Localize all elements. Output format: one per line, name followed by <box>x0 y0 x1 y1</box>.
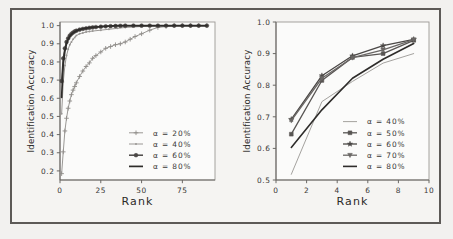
chart-svg-left: 0.20.30.40.50.60.70.80.91.00255075RankId… <box>10 8 225 224</box>
x-tick-label: 6 <box>365 186 370 195</box>
y-tick-label: 0.5 <box>41 112 55 121</box>
y-axis-title: Identification Accuracy <box>242 50 252 153</box>
figure-root: 0.20.30.40.50.60.70.80.91.00255075RankId… <box>0 0 453 239</box>
data-point <box>289 132 293 136</box>
chart-svg-right: 0.50.60.70.80.91.00246810RankIdentificat… <box>226 8 441 224</box>
y-tick-label: 0.3 <box>41 148 55 157</box>
x-tick-label: 50 <box>136 186 147 195</box>
y-tick-label: 0.5 <box>257 176 271 185</box>
data-point <box>135 143 137 145</box>
x-tick-label: 4 <box>335 186 340 195</box>
data-point <box>108 28 110 30</box>
y-tick-label: 0.6 <box>257 144 271 153</box>
data-point <box>82 32 84 34</box>
data-point <box>66 55 68 57</box>
legend-label: α = 80% <box>153 162 192 171</box>
data-point <box>69 44 71 46</box>
data-point <box>67 48 69 50</box>
data-point <box>64 65 66 67</box>
data-point <box>100 29 102 31</box>
legend-label: α = 60% <box>367 140 406 149</box>
y-tick-label: 0.8 <box>257 81 271 90</box>
legend-label: α = 50% <box>367 129 406 138</box>
y-tick-label: 0.8 <box>41 58 55 67</box>
y-tick-label: 0.6 <box>41 94 55 103</box>
y-tick-label: 0.9 <box>41 39 55 48</box>
x-tick-label: 0 <box>57 186 62 195</box>
y-axis-title: Identification Accuracy <box>26 50 36 153</box>
legend-label: α = 40% <box>153 140 192 149</box>
x-tick-label: 8 <box>396 186 401 195</box>
data-point <box>70 41 72 43</box>
legend-label: α = 20% <box>153 129 192 138</box>
y-tick-label: 0.2 <box>41 167 55 176</box>
data-point <box>72 38 74 40</box>
x-tick-label: 75 <box>177 186 188 195</box>
data-point <box>88 30 90 32</box>
data-point <box>92 30 94 32</box>
y-tick-label: 0.4 <box>41 130 55 139</box>
legend-label: α = 60% <box>153 151 192 160</box>
legend-label: α = 80% <box>367 162 406 171</box>
y-tick-label: 0.7 <box>41 76 55 85</box>
y-tick-label: 0.9 <box>257 49 271 58</box>
data-point <box>74 36 76 38</box>
x-axis-title: Rank <box>122 195 154 208</box>
x-axis-title: Rank <box>337 195 369 208</box>
chart-panel-left: 0.20.30.40.50.60.70.80.91.00255075RankId… <box>10 8 225 224</box>
legend-label: α = 70% <box>367 151 406 160</box>
x-tick-label: 0 <box>273 186 278 195</box>
data-point <box>75 35 77 37</box>
y-tick-label: 1.0 <box>41 21 55 30</box>
x-tick-label: 10 <box>424 186 435 195</box>
chart-panel-right: 0.50.60.70.80.91.00246810RankIdentificat… <box>226 8 441 224</box>
y-tick-label: 0.7 <box>257 113 271 122</box>
data-point <box>85 31 87 33</box>
data-point <box>348 131 352 135</box>
x-tick-label: 2 <box>304 186 309 195</box>
legend-label: α = 40% <box>367 117 406 126</box>
x-tick-label: 25 <box>95 186 106 195</box>
data-point <box>134 153 138 157</box>
y-tick-label: 1.0 <box>257 18 271 27</box>
data-point <box>61 113 63 115</box>
data-point <box>79 33 81 35</box>
